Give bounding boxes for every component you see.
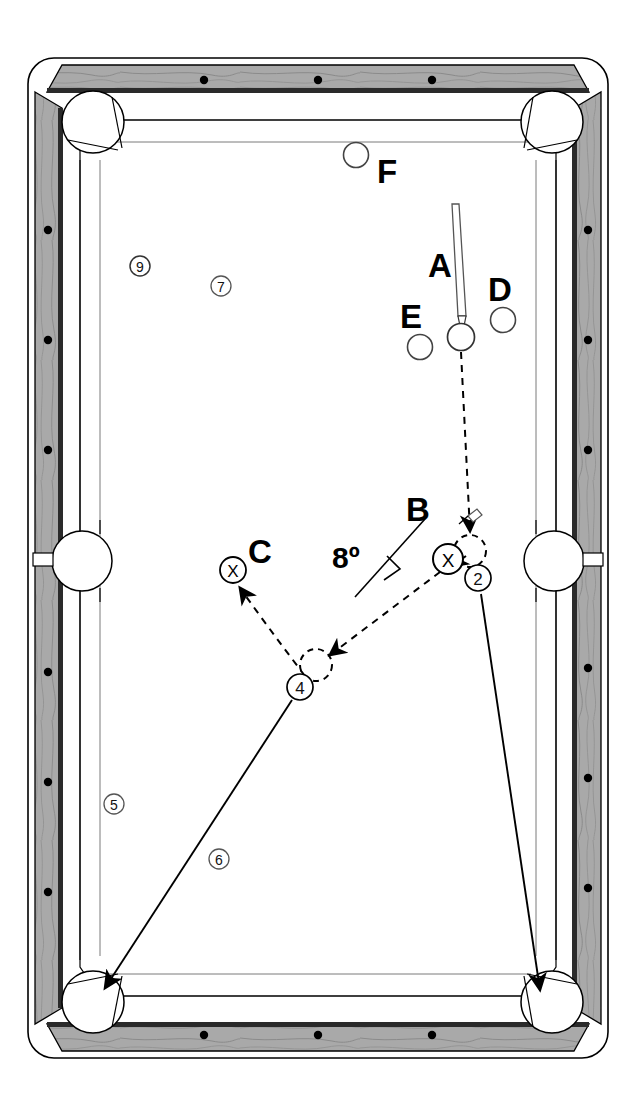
svg-text:7: 7 bbox=[217, 279, 225, 295]
diamond-bottom-1 bbox=[200, 1031, 208, 1039]
diamond-top-3 bbox=[428, 76, 436, 84]
ball-e bbox=[408, 335, 433, 360]
ball-b-x: X bbox=[433, 544, 463, 574]
ball-f bbox=[344, 143, 369, 168]
svg-text:4: 4 bbox=[295, 679, 304, 698]
diamond-bottom-2 bbox=[314, 1031, 322, 1039]
diamond-right-6 bbox=[584, 884, 592, 892]
pocket-bottom-right bbox=[521, 971, 583, 1033]
diamond-left-5 bbox=[44, 778, 52, 786]
diamond-right-5 bbox=[584, 774, 592, 782]
table-svg: 8º X X 9 bbox=[0, 0, 636, 1098]
side-pocket-tab-left bbox=[33, 553, 53, 566]
diamond-top-1 bbox=[200, 76, 208, 84]
label-e: E bbox=[400, 298, 422, 335]
diamond-left-6 bbox=[44, 888, 52, 896]
marker-6: 6 bbox=[209, 849, 229, 869]
diamond-right-4 bbox=[584, 664, 592, 672]
ball-c-x: X bbox=[220, 557, 246, 583]
diamond-bottom-3 bbox=[428, 1031, 436, 1039]
angle-label: 8º bbox=[332, 541, 360, 574]
label-d: D bbox=[488, 271, 512, 308]
svg-text:5: 5 bbox=[110, 797, 118, 813]
pocket-top-left bbox=[62, 91, 124, 153]
marker-9: 9 bbox=[130, 256, 150, 276]
svg-text:9: 9 bbox=[136, 259, 144, 275]
ball-a-cue bbox=[448, 324, 475, 351]
diamond-left-3 bbox=[44, 446, 52, 454]
side-pocket-tab-right bbox=[583, 553, 603, 566]
label-a: A bbox=[428, 247, 452, 284]
playing-surface bbox=[80, 120, 556, 996]
diamond-right-2 bbox=[584, 336, 592, 344]
x-mark-c: X bbox=[227, 562, 238, 581]
ball-d bbox=[491, 308, 516, 333]
marker-2: 2 bbox=[465, 565, 491, 591]
diamond-right-3 bbox=[584, 446, 592, 454]
diamond-left-1 bbox=[44, 226, 52, 234]
x-mark-b: X bbox=[442, 550, 455, 571]
diamond-left-4 bbox=[44, 668, 52, 676]
svg-text:6: 6 bbox=[215, 852, 223, 868]
diamond-right-1 bbox=[584, 226, 592, 234]
pocket-bottom-left bbox=[62, 971, 124, 1033]
marker-4: 4 bbox=[287, 674, 313, 700]
svg-text:2: 2 bbox=[473, 570, 482, 589]
marker-7: 7 bbox=[211, 276, 231, 296]
diamond-left-2 bbox=[44, 336, 52, 344]
label-b: B bbox=[406, 491, 430, 528]
marker-5: 5 bbox=[104, 794, 124, 814]
pocket-right-side bbox=[524, 531, 584, 591]
label-c: C bbox=[248, 533, 272, 570]
pocket-left-side bbox=[52, 531, 112, 591]
diamond-top-2 bbox=[314, 76, 322, 84]
pool-table-diagram: 8º X X 9 bbox=[0, 0, 636, 1098]
label-f: F bbox=[377, 153, 397, 190]
pocket-top-right bbox=[521, 91, 583, 153]
